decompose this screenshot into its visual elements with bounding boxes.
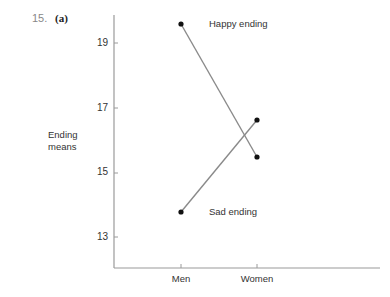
marker-women-sad <box>254 117 259 122</box>
happy-ending-line <box>181 24 257 157</box>
marker-women-happy <box>254 154 259 159</box>
marker-men-happy <box>178 21 183 26</box>
marker-men-sad <box>178 209 183 214</box>
chart-plot <box>0 0 390 297</box>
sad-ending-line <box>181 120 257 212</box>
